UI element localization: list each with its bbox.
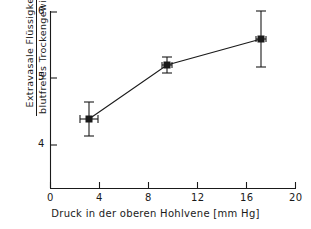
x-tick-label-16: 16 xyxy=(240,192,253,203)
y-axis-ticks xyxy=(51,12,58,145)
x-axis-title: Druck in der oberen Hohlvene [mm Hg] xyxy=(51,208,260,219)
y-axis-title: Extravasale Flüssigkeit blutfreies Trock… xyxy=(25,0,47,129)
x-axis-ticks xyxy=(51,182,296,189)
x-tick-label-4: 4 xyxy=(96,192,103,203)
y-axis-title-denominator: blutfreies Trockengewicht xyxy=(36,0,49,116)
x-tick-label-8: 8 xyxy=(145,192,152,203)
y-axis-title-numerator: Extravasale Flüssigkeit xyxy=(24,0,36,109)
x-tick-label-0: 0 xyxy=(47,192,54,203)
data-series-line xyxy=(89,39,261,119)
x-tick-label-12: 12 xyxy=(191,192,204,203)
x-tick-label-20: 20 xyxy=(289,192,302,203)
data-point-3 xyxy=(256,11,266,67)
y-tick-label-4: 4 xyxy=(38,138,45,149)
chart-figure: 6 5 4 0 4 8 12 16 20 Extravasale Flüssig… xyxy=(0,0,311,229)
data-point-1 xyxy=(80,102,98,136)
data-point-2 xyxy=(162,57,172,73)
x-axis-title-row: Druck in der oberen Hohlvene [mm Hg] xyxy=(0,208,311,219)
